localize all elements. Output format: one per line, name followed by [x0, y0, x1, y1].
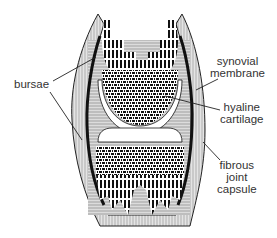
capsule-text: capsule: [217, 183, 257, 195]
membrane-text: membrane: [210, 67, 265, 79]
label-synovial-membrane: synovial membrane: [210, 55, 265, 79]
synovial-text: synovial: [210, 55, 265, 67]
label-hyaline-cartilage: hyaline cartilage: [220, 101, 263, 125]
hyaline-text: hyaline: [220, 101, 263, 113]
upper-bone: [102, 20, 178, 125]
label-bursae: bursae: [14, 78, 49, 90]
label-fibrous-joint-capsule: fibrous joint capsule: [217, 159, 257, 195]
fibrous-text: fibrous: [217, 159, 257, 171]
joint-text: joint: [217, 171, 257, 183]
cartilage-text: cartilage: [220, 113, 263, 125]
leader-fibrous-capsule: [203, 142, 220, 160]
bursae-text: bursae: [14, 78, 49, 90]
